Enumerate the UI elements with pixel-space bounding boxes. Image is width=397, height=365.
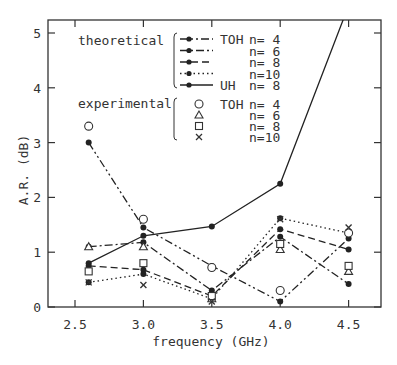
filled-circle-marker bbox=[277, 234, 283, 240]
y-axis-label: A.R. (dB) bbox=[16, 135, 31, 205]
open-circle-marker bbox=[208, 264, 216, 272]
legend-n: n=10 bbox=[249, 130, 280, 145]
series-line bbox=[89, 218, 349, 299]
filled-circle-marker bbox=[346, 246, 352, 252]
open-triangle-marker bbox=[195, 111, 203, 118]
legend-theoretical-label: theoretical bbox=[78, 33, 164, 48]
series-line bbox=[89, 237, 349, 291]
legend-experimental-label: experimental bbox=[78, 96, 172, 111]
legend-marker bbox=[186, 71, 191, 76]
x-tick-label: 4.5 bbox=[337, 317, 360, 332]
legend-brace bbox=[174, 98, 177, 140]
series-experimental-toh-n-8 bbox=[85, 240, 352, 299]
open-square-marker bbox=[85, 268, 92, 275]
filled-circle-marker bbox=[209, 223, 215, 229]
legend: theoreticalexperimentalTOHn= 4n= 6n= 8n=… bbox=[78, 32, 280, 145]
legend-marker bbox=[186, 36, 191, 41]
plot-axes: 2.53.03.54.04.5012345 bbox=[33, 20, 381, 332]
filled-circle-marker bbox=[277, 181, 283, 187]
y-tick-label: 0 bbox=[33, 300, 41, 315]
y-tick-label: 2 bbox=[33, 190, 41, 205]
x-tick-label: 4.0 bbox=[268, 317, 291, 332]
open-triangle-marker bbox=[139, 243, 147, 250]
filled-circle-marker bbox=[86, 140, 92, 146]
filled-circle-marker bbox=[86, 260, 92, 266]
legend-marker bbox=[186, 82, 191, 87]
y-tick-label: 4 bbox=[33, 81, 41, 96]
open-square-marker bbox=[140, 260, 147, 267]
open-circle-marker bbox=[195, 100, 203, 108]
legend-type: TOH bbox=[220, 32, 243, 47]
open-circle-marker bbox=[276, 287, 284, 295]
legend-marker bbox=[186, 59, 191, 64]
filled-circle-marker bbox=[140, 233, 146, 239]
open-square-marker bbox=[345, 262, 352, 269]
filled-circle-marker bbox=[140, 225, 146, 231]
x-tick-label: 3.5 bbox=[200, 317, 223, 332]
legend-brace bbox=[174, 33, 177, 88]
filled-circle-marker bbox=[277, 299, 283, 305]
filled-circle-marker bbox=[140, 271, 146, 277]
series-theoretical-toh-n-6 bbox=[86, 234, 352, 294]
x-tick-label: 2.5 bbox=[63, 317, 86, 332]
legend-n: n= 8 bbox=[249, 78, 280, 93]
series-theoretical-toh-n-8 bbox=[86, 226, 352, 299]
open-square-marker bbox=[196, 123, 203, 130]
y-tick-label: 1 bbox=[33, 245, 41, 260]
filled-circle-marker bbox=[277, 215, 283, 221]
open-circle-marker bbox=[85, 122, 93, 130]
filled-circle-marker bbox=[277, 226, 283, 232]
legend-type: UH bbox=[220, 78, 236, 93]
x-tick-label: 3.0 bbox=[132, 317, 155, 332]
x-axis-label: frequency (GHz) bbox=[152, 334, 269, 349]
open-square-marker bbox=[277, 240, 284, 247]
series-experimental-toh-n-10 bbox=[86, 216, 352, 304]
filled-circle-marker bbox=[346, 281, 352, 287]
plot-series bbox=[85, 6, 353, 305]
y-tick-label: 3 bbox=[33, 136, 41, 151]
ar-frequency-chart: 2.53.03.54.04.5012345 theoreticalexperim… bbox=[0, 0, 397, 365]
open-circle-marker bbox=[139, 215, 147, 223]
legend-marker bbox=[186, 48, 191, 53]
legend-type: TOH bbox=[220, 97, 243, 112]
y-tick-label: 5 bbox=[33, 26, 41, 41]
